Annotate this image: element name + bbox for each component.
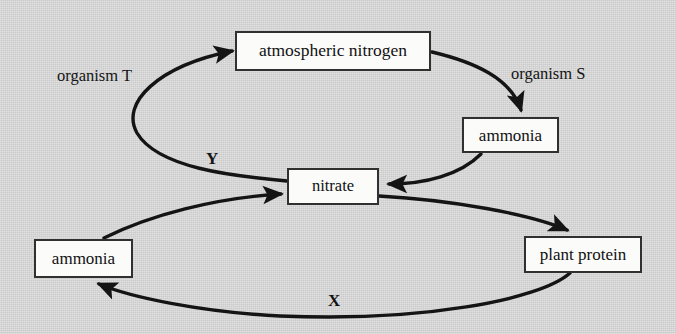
node-ammonia-left[interactable]: ammonia [34, 239, 133, 278]
node-ammonia-left-label: ammonia [52, 250, 115, 267]
node-atmospheric-nitrogen[interactable]: atmospheric nitrogen [235, 31, 431, 71]
edge-nitrate-to-plant-protein [379, 196, 567, 230]
node-nitrate-label: nitrate [312, 178, 354, 195]
edge-label-organism-s: organism S [511, 66, 585, 83]
node-ammonia-right[interactable]: ammonia [462, 117, 559, 153]
edge-label-organism-t: organism T [57, 68, 132, 85]
edge-atmospheric-nitrogen-to-ammonia-right [432, 52, 521, 110]
edge-ammonia-left-to-nitrate [104, 194, 281, 238]
nitrogen-cycle-diagram: atmospheric nitrogen ammonia nitrate amm… [0, 0, 676, 334]
node-ammonia-right-label: ammonia [479, 127, 542, 144]
edge-label-y: Y [206, 150, 218, 167]
node-plant-protein[interactable]: plant protein [524, 236, 642, 273]
node-plant-protein-label: plant protein [540, 246, 626, 263]
node-atmospheric-nitrogen-label: atmospheric nitrogen [259, 42, 407, 60]
node-nitrate[interactable]: nitrate [287, 168, 379, 205]
edge-label-x: X [328, 292, 340, 309]
edge-ammonia-right-to-nitrate [389, 154, 481, 184]
